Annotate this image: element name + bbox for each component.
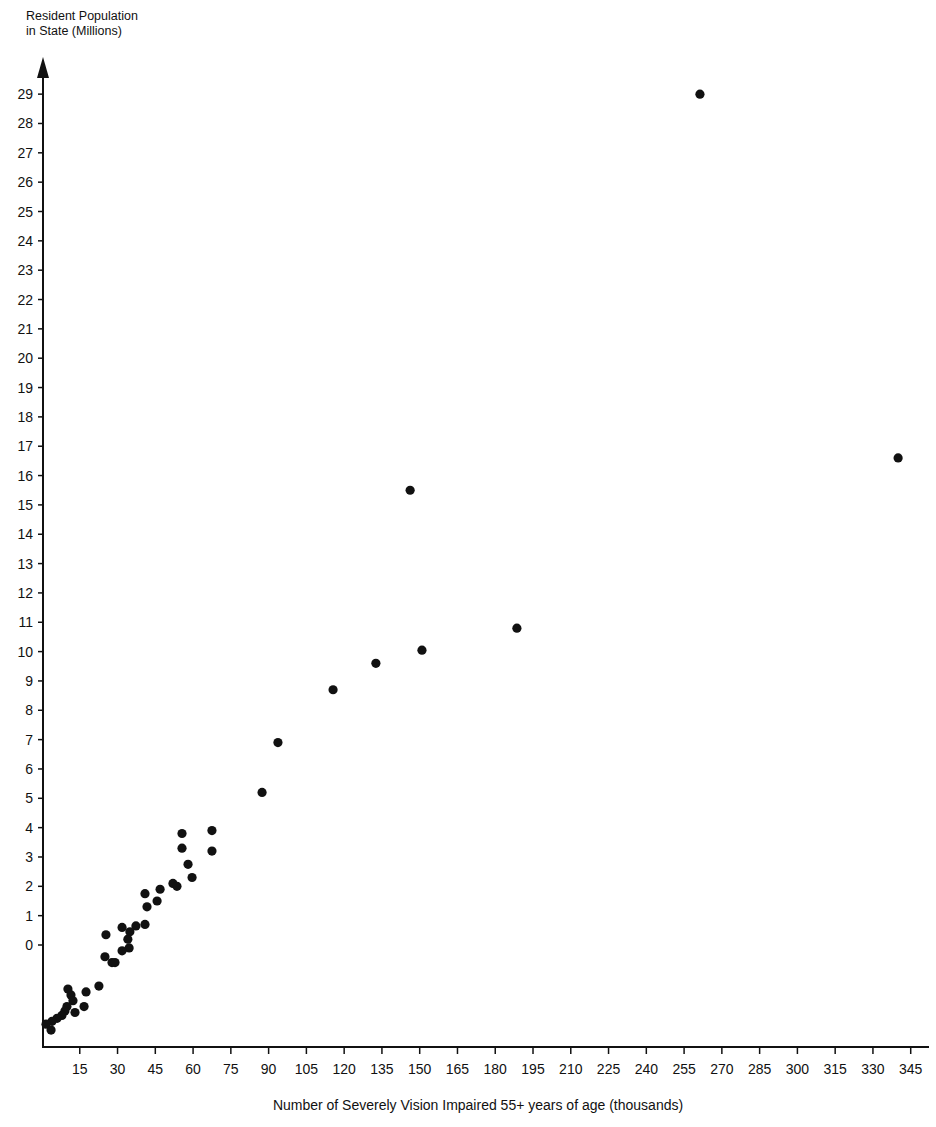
x-tick: 75 xyxy=(223,1047,239,1077)
x-tick-label: 330 xyxy=(861,1061,885,1077)
x-tick: 345 xyxy=(899,1047,923,1077)
y-tick-label: 3 xyxy=(25,849,33,865)
x-tick: 165 xyxy=(446,1047,470,1077)
scatter-plot: 0123456789101112131415161718192021222324… xyxy=(0,0,936,1127)
x-tick-label: 270 xyxy=(710,1061,734,1077)
y-tick: 23 xyxy=(17,262,43,278)
y-tick: 7 xyxy=(25,732,43,748)
x-tick-label: 300 xyxy=(786,1061,810,1077)
data-point xyxy=(123,935,132,944)
x-tick: 150 xyxy=(408,1047,432,1077)
y-tick-label: 8 xyxy=(25,702,33,718)
data-points xyxy=(41,90,902,1035)
y-tick-label: 6 xyxy=(25,761,33,777)
x-tick: 240 xyxy=(635,1047,659,1077)
x-tick-label: 240 xyxy=(635,1061,659,1077)
y-tick-label: 10 xyxy=(17,644,33,660)
y-tick-label: 9 xyxy=(25,673,33,689)
x-tick: 120 xyxy=(332,1047,356,1077)
x-tick-label: 150 xyxy=(408,1061,432,1077)
data-point xyxy=(328,685,337,694)
y-tick-label: 22 xyxy=(17,292,33,308)
x-tick-label: 195 xyxy=(521,1061,545,1077)
x-tick: 270 xyxy=(710,1047,734,1077)
y-axis-ticks: 0123456789101112131415161718192021222324… xyxy=(17,86,43,953)
y-tick: 0 xyxy=(25,937,43,953)
y-tick-label: 1 xyxy=(25,908,33,924)
data-point xyxy=(183,860,192,869)
x-tick: 330 xyxy=(861,1047,885,1077)
x-tick-label: 45 xyxy=(148,1061,164,1077)
y-tick-label: 12 xyxy=(17,585,33,601)
x-tick-label: 285 xyxy=(748,1061,772,1077)
y-tick-label: 28 xyxy=(17,115,33,131)
data-point xyxy=(371,659,380,668)
y-tick: 20 xyxy=(17,350,43,366)
data-point xyxy=(172,882,181,891)
x-tick: 300 xyxy=(786,1047,810,1077)
data-point xyxy=(94,981,103,990)
y-tick: 5 xyxy=(25,790,43,806)
x-tick: 15 xyxy=(72,1047,88,1077)
data-point xyxy=(110,958,119,967)
data-point xyxy=(140,920,149,929)
y-tick: 21 xyxy=(17,321,43,337)
x-tick-label: 90 xyxy=(261,1061,277,1077)
y-tick-label: 20 xyxy=(17,350,33,366)
y-tick: 9 xyxy=(25,673,43,689)
data-point xyxy=(70,1008,79,1017)
y-tick: 16 xyxy=(17,468,43,484)
data-point xyxy=(81,987,90,996)
y-tick: 8 xyxy=(25,702,43,718)
x-tick: 30 xyxy=(110,1047,126,1077)
x-tick-label: 255 xyxy=(672,1061,696,1077)
data-point xyxy=(207,826,216,835)
x-tick: 90 xyxy=(261,1047,277,1077)
data-point xyxy=(207,847,216,856)
y-tick-label: 14 xyxy=(17,526,33,542)
y-tick-label: 17 xyxy=(17,438,33,454)
data-point xyxy=(177,829,186,838)
y-tick-label: 11 xyxy=(18,614,33,630)
y-tick-label: 4 xyxy=(25,820,33,836)
x-tick-label: 165 xyxy=(446,1061,470,1077)
x-tick-label: 15 xyxy=(72,1061,88,1077)
x-tick: 60 xyxy=(185,1047,201,1077)
y-tick: 18 xyxy=(17,409,43,425)
x-tick-label: 60 xyxy=(185,1061,201,1077)
x-tick-label: 105 xyxy=(295,1061,319,1077)
y-tick: 17 xyxy=(17,438,43,454)
y-tick: 10 xyxy=(17,644,43,660)
y-tick-label: 7 xyxy=(25,732,33,748)
y-tick: 14 xyxy=(17,526,43,542)
y-axis-arrow-icon xyxy=(37,57,49,78)
y-tick: 26 xyxy=(17,174,43,190)
data-point xyxy=(155,885,164,894)
data-point xyxy=(101,930,110,939)
y-tick-label: 21 xyxy=(17,321,33,337)
x-tick-label: 315 xyxy=(823,1061,847,1077)
data-point xyxy=(46,1025,55,1034)
y-tick: 27 xyxy=(17,145,43,161)
y-tick: 1 xyxy=(25,908,43,924)
data-point xyxy=(187,873,196,882)
x-tick: 225 xyxy=(597,1047,621,1077)
y-tick: 25 xyxy=(17,204,43,220)
data-point xyxy=(79,1002,88,1011)
y-tick: 4 xyxy=(25,820,43,836)
data-point xyxy=(100,952,109,961)
data-point xyxy=(117,946,126,955)
y-tick: 3 xyxy=(25,849,43,865)
x-tick: 255 xyxy=(672,1047,696,1077)
y-tick: 19 xyxy=(17,380,43,396)
x-tick: 135 xyxy=(370,1047,394,1077)
x-tick-label: 180 xyxy=(484,1061,508,1077)
y-tick: 11 xyxy=(18,614,43,630)
data-point xyxy=(894,453,903,462)
data-point xyxy=(117,923,126,932)
data-point xyxy=(695,90,704,99)
x-axis-ticks: 1530456075901051201351501651801952102252… xyxy=(72,1047,923,1077)
x-tick: 105 xyxy=(295,1047,319,1077)
y-tick: 12 xyxy=(17,585,43,601)
data-point xyxy=(273,738,282,747)
